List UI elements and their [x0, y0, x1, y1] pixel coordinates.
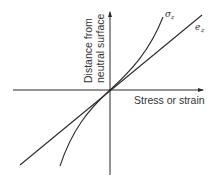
strain-label: e z — [195, 22, 205, 33]
sigma-label: σ z — [165, 9, 175, 20]
svg-text:z: z — [170, 13, 175, 20]
svg-text:z: z — [200, 26, 205, 33]
svg-text:e: e — [195, 22, 200, 32]
stress-curve — [60, 17, 163, 166]
svg-text:neutral surface: neutral surface — [94, 13, 106, 83]
diagram: σ z e z Stress or strain Distance from n… — [0, 0, 216, 180]
x-axis-label: Stress or strain — [134, 94, 205, 106]
svg-text:Distance from: Distance from — [82, 18, 94, 83]
y-axis-label: Distance from neutral surface — [82, 13, 106, 83]
